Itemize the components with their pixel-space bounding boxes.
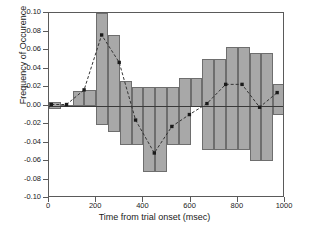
data-point-marker (118, 61, 121, 64)
y-tick-label: 0.10 (26, 8, 41, 16)
data-point-marker (153, 151, 156, 154)
data-point-marker (240, 83, 243, 86)
y-tick-label: -0.06 (24, 156, 41, 164)
y-tick (43, 160, 48, 161)
y-tick-label: 0.00 (26, 101, 41, 109)
y-tick-label: -0.10 (24, 193, 41, 201)
x-tick-label: 400 (136, 201, 149, 210)
y-tick-label: 0.06 (26, 45, 41, 53)
data-point-marker (82, 88, 85, 91)
data-point-marker (134, 118, 137, 121)
y-tick (43, 105, 48, 106)
y-tick-label: -0.08 (24, 175, 41, 183)
plot-area (48, 12, 284, 197)
y-tick (43, 12, 48, 13)
y-tick-label: 0.04 (26, 64, 41, 72)
data-point-marker (65, 103, 68, 106)
x-tick-label: 0 (46, 201, 50, 210)
data-point-marker (275, 91, 278, 94)
y-tick (43, 123, 48, 124)
y-tick (43, 142, 48, 143)
data-point-marker (205, 102, 208, 105)
x-tick-label: 1000 (276, 201, 293, 210)
x-tick-label: 600 (183, 201, 196, 210)
x-axis-title: Time from trial onset (msec) (0, 212, 309, 222)
y-axis-title: Frequency of Occurence (18, 0, 28, 140)
data-point-marker (100, 33, 103, 36)
data-point-marker (50, 103, 53, 106)
mean-line-layer (49, 13, 283, 196)
data-point-marker (188, 113, 191, 116)
y-tick-label: 0.02 (26, 82, 41, 90)
data-point-marker (224, 83, 227, 86)
data-point-marker (170, 125, 173, 128)
mean-line (51, 35, 277, 153)
x-tick-label: 200 (89, 201, 102, 210)
x-tick-label: 800 (231, 201, 244, 210)
y-tick-label: 0.08 (26, 27, 41, 35)
chart-figure: 0.100.080.060.040.020.00-0.02-0.04-0.06-… (0, 0, 309, 235)
y-tick (43, 179, 48, 180)
data-point-marker (258, 106, 261, 109)
y-tick (43, 49, 48, 50)
y-tick (43, 86, 48, 87)
y-tick (43, 31, 48, 32)
y-tick (43, 68, 48, 69)
